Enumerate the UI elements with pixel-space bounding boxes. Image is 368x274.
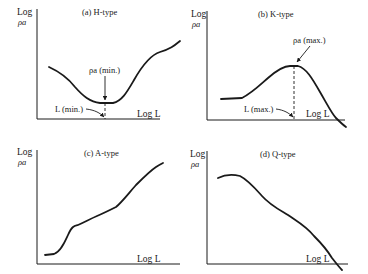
panel-a-l-min-arrow — [86, 109, 104, 117]
panel-b-l-max-arrow — [276, 109, 293, 117]
panel-a-title: (a) H-type — [82, 7, 117, 17]
panel-a-h-type: Log ρa (a) H-type ρa (min.) L (min.) Log… — [17, 7, 180, 119]
panel-d-axes — [207, 151, 348, 264]
panel-d-ylabel-log: Log — [190, 149, 206, 159]
panel-c-axes — [37, 150, 180, 264]
panel-b-k-type: Log ρa (b) K-type ρa (max.) L (max.) Log… — [191, 9, 346, 127]
panel-b-title: (b) K-type — [258, 9, 294, 19]
panel-a-xlabel: Log L — [137, 109, 161, 119]
panel-b-l-max-label: L (max.) — [244, 104, 274, 114]
panel-a-ylabel-log: Log — [17, 7, 33, 17]
panel-b-rho-max-label: ρa (max.) — [293, 35, 326, 45]
panel-d-title: (d) Q-type — [260, 149, 296, 159]
panel-c-title: (c) A-type — [84, 148, 119, 158]
panel-b-ylabel-log: Log — [191, 9, 207, 19]
panel-b-xlabel: Log L — [306, 109, 330, 119]
panel-a-ylabel-rho: ρa — [17, 17, 26, 27]
panel-d-ylabel-rho: ρa — [190, 159, 199, 169]
panel-b-ylabel-rho: ρa — [191, 19, 200, 29]
panel-c-xlabel: Log L — [137, 254, 161, 264]
panel-a-l-min-label: L (min.) — [55, 104, 83, 114]
panel-a-rho-min-label: ρa (min.) — [89, 65, 120, 75]
panel-c-ylabel-rho: ρa — [17, 157, 26, 167]
panel-b-axes — [207, 11, 345, 120]
panel-c-a-type: Log ρa (c) A-type Log L — [17, 147, 180, 264]
panel-d-xlabel: Log L — [306, 254, 330, 264]
panel-d-q-type: Log ρa (d) Q-type Log L — [190, 149, 348, 270]
panel-c-ylabel-log: Log — [17, 147, 33, 157]
sounding-curve-types-figure: Log ρa (a) H-type ρa (min.) L (min.) Log… — [0, 0, 368, 274]
panel-b-rho-max-arrow — [297, 46, 310, 62]
panel-c-curve — [45, 163, 163, 255]
